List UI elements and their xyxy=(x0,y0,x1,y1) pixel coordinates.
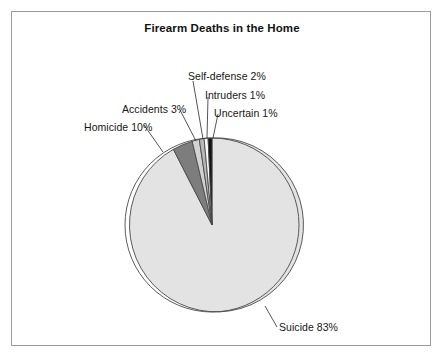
pie-slice-suicide[interactable] xyxy=(129,138,303,312)
pie-label-accidents: Accidents 3% xyxy=(122,103,186,115)
pie-label-intruders: Intruders 1% xyxy=(205,89,265,101)
pie-chart xyxy=(0,0,444,359)
leader-line-intruders xyxy=(207,97,208,138)
figure-canvas: Firearm Deaths in the Home Homicide 10% … xyxy=(0,0,444,359)
pie-label-suicide: Suicide 83% xyxy=(279,321,338,333)
leader-line-suicide xyxy=(265,306,277,327)
pie-label-self-defense: Self-defense 2% xyxy=(188,70,266,82)
pie-label-uncertain: Uncertain 1% xyxy=(214,107,278,119)
leader-line-self-defense xyxy=(193,81,203,139)
pie-label-homicide: Homicide 10% xyxy=(84,121,152,133)
